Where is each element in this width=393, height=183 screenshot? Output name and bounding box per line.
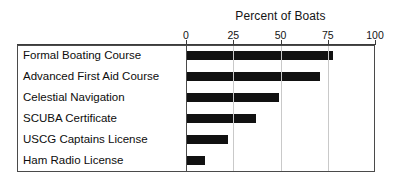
x-tick-mark-50 <box>281 40 282 45</box>
x-tick-mark-75 <box>328 40 329 45</box>
x-tick-mark-0 <box>186 40 187 45</box>
bar-row <box>0 66 393 87</box>
bar-row <box>0 45 393 66</box>
gridline-75 <box>328 46 329 171</box>
bar <box>187 72 320 81</box>
bar-row <box>0 87 393 108</box>
bar-row <box>0 108 393 129</box>
bar <box>187 114 256 123</box>
bar <box>187 135 228 144</box>
x-axis-tick-labels: 0255075100 <box>0 29 393 43</box>
chart-title: Percent of Boats <box>186 9 375 23</box>
bars-layer <box>0 45 393 172</box>
bar-row <box>0 150 393 171</box>
bar-chart: Percent of Boats 0255075100 Formal Boati… <box>0 0 393 183</box>
bar-row <box>0 129 393 150</box>
x-tick-mark-25 <box>233 40 234 45</box>
gridline-25 <box>233 46 234 171</box>
bar <box>187 156 205 165</box>
x-tick-mark-100 <box>375 40 376 45</box>
gridline-50 <box>281 46 282 171</box>
bar <box>187 51 333 60</box>
